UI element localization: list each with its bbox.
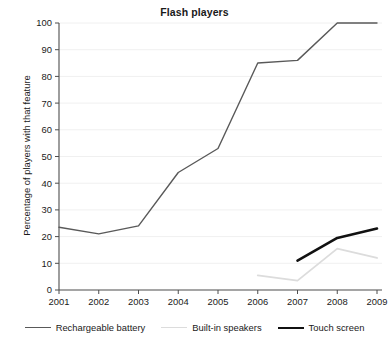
y-tick-label: 0 bbox=[47, 284, 52, 295]
y-tick-label: 80 bbox=[42, 71, 52, 82]
x-tick-label: 2005 bbox=[208, 296, 229, 307]
x-tick-label: 2006 bbox=[247, 296, 268, 307]
legend-item[interactable]: Touch screen bbox=[278, 322, 365, 333]
plot-area: 0102030405060708090100 20012002200320042… bbox=[0, 0, 389, 348]
y-tick-label: 60 bbox=[42, 124, 52, 135]
y-tick-label: 10 bbox=[42, 258, 52, 269]
y-tick-label: 70 bbox=[42, 98, 52, 109]
y-tick-label: 30 bbox=[42, 204, 52, 215]
series-line bbox=[258, 249, 377, 281]
y-tick-label: 100 bbox=[36, 17, 52, 28]
legend-label: Built-in speakers bbox=[192, 322, 261, 333]
legend-line-swatch bbox=[161, 327, 187, 328]
x-tick-label: 2001 bbox=[49, 296, 70, 307]
y-tick-label: 90 bbox=[42, 44, 52, 55]
y-tick-label: 40 bbox=[42, 178, 52, 189]
series-line bbox=[59, 23, 377, 234]
legend-item[interactable]: Built-in speakers bbox=[161, 322, 261, 333]
legend-item[interactable]: Rechargeable battery bbox=[25, 322, 146, 333]
data-series bbox=[59, 23, 377, 281]
y-axis-ticks: 0102030405060708090100 bbox=[36, 17, 59, 295]
x-tick-label: 2003 bbox=[128, 296, 149, 307]
legend-line-swatch bbox=[278, 327, 304, 329]
x-tick-label: 2009 bbox=[367, 296, 388, 307]
x-axis-ticks: 200120022003200420052006200720082009 bbox=[49, 290, 388, 307]
chart-figure: Flash players Percentage of players with… bbox=[0, 0, 389, 348]
x-tick-label: 2007 bbox=[287, 296, 308, 307]
y-tick-label: 20 bbox=[42, 231, 52, 242]
x-tick-label: 2002 bbox=[88, 296, 109, 307]
legend-label: Rechargeable battery bbox=[56, 322, 146, 333]
legend-line-swatch bbox=[25, 327, 51, 328]
y-tick-label: 50 bbox=[42, 151, 52, 162]
x-tick-label: 2004 bbox=[168, 296, 189, 307]
x-tick-label: 2008 bbox=[327, 296, 348, 307]
chart-legend: Rechargeable batteryBuilt-in speakersTou… bbox=[0, 322, 389, 333]
legend-label: Touch screen bbox=[309, 322, 365, 333]
